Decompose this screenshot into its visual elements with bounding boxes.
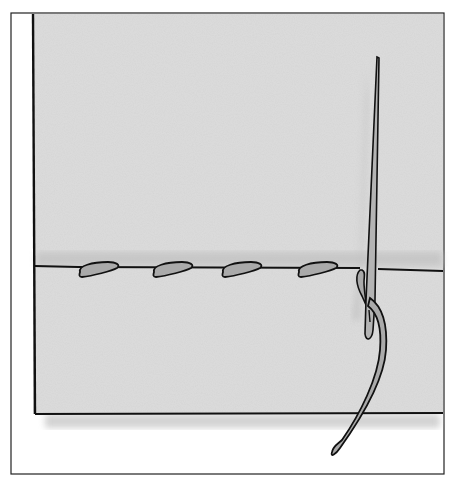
needle-eye (369, 310, 370, 322)
sewing-illustration (0, 0, 454, 482)
fabric-bottom-shadow (45, 414, 440, 428)
illustration-stage (0, 0, 454, 482)
fabric-bottom-edge (35, 413, 443, 414)
